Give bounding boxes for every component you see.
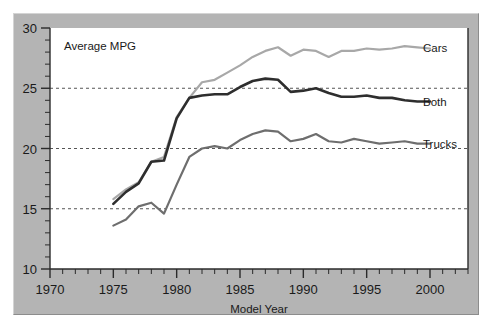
x-tick-label-1975: 1975 [99,282,128,297]
plot-note-average-mpg: Average MPG [64,40,136,52]
series-label-both: Both [423,96,447,108]
x-tick-label-1990: 1990 [289,282,318,297]
y-tick-label-30: 30 [23,21,37,36]
x-tick-label-1970: 1970 [36,282,65,297]
x-axis-title: Model Year [230,303,288,315]
chart-panel: 10152025301970197519801985199019952000Mo… [13,13,479,315]
y-tick-label-25: 25 [23,81,37,96]
x-tick-label-1995: 1995 [352,282,381,297]
y-tick-label-15: 15 [23,202,37,217]
series-label-trucks: Trucks [423,138,457,150]
y-tick-label-20: 20 [23,142,37,157]
chart-canvas: 10152025301970197519801985199019952000Mo… [14,14,480,316]
x-tick-label-2000: 2000 [416,282,445,297]
y-tick-label-10: 10 [23,262,37,277]
chart-figure: 10152025301970197519801985199019952000Mo… [0,0,495,331]
x-tick-label-1980: 1980 [162,282,191,297]
x-tick-label-1985: 1985 [226,282,255,297]
series-label-cars: Cars [423,42,448,54]
